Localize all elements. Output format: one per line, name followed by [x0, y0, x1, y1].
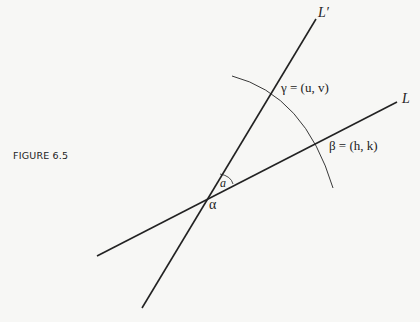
label-L-prime: L′ — [318, 5, 329, 21]
label-L: L — [402, 91, 410, 107]
label-alpha: α — [209, 197, 216, 213]
label-angle-a: a — [220, 176, 226, 191]
line-L — [97, 102, 397, 256]
figure-caption: FIGURE 6.5 — [13, 150, 68, 161]
diagram-svg — [0, 0, 420, 322]
label-gamma: γ = (u, v) — [281, 80, 329, 96]
line-L-prime — [142, 19, 316, 308]
label-beta: β = (h, k) — [329, 138, 378, 154]
figure-canvas: FIGURE 6.5 L′ L γ = (u, v) β = (h, k) α … — [0, 0, 420, 322]
